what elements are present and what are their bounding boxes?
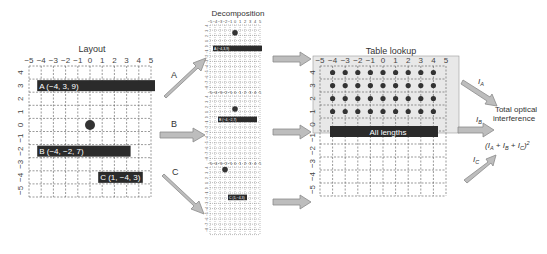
layout-y-ticks: 43210−1−2−3−4−5 bbox=[16, 70, 25, 195]
svg-text:−2: −2 bbox=[205, 126, 209, 130]
svg-text:−2: −2 bbox=[205, 55, 209, 59]
svg-text:−5: −5 bbox=[205, 212, 209, 216]
arrow-a: A bbox=[164, 58, 206, 98]
svg-text:2: 2 bbox=[308, 96, 317, 101]
table-highlight bbox=[313, 56, 459, 133]
svg-text:4: 4 bbox=[137, 56, 142, 65]
formula: (IA + IB + IC)2 bbox=[485, 140, 530, 151]
svg-text:−5: −5 bbox=[24, 56, 34, 65]
svg-text:4: 4 bbox=[205, 95, 209, 97]
total-title-line1: Total optical bbox=[495, 105, 537, 114]
svg-text:−1: −1 bbox=[228, 19, 233, 24]
svg-text:4: 4 bbox=[205, 166, 209, 168]
svg-text:−1: −1 bbox=[228, 161, 233, 166]
svg-text:−4: −4 bbox=[205, 136, 209, 140]
arrow-b-icon bbox=[160, 128, 205, 142]
bar-b-label: B (−4, −2, 7) bbox=[39, 147, 84, 156]
svg-text:1: 1 bbox=[393, 56, 398, 65]
arrow-c-label: C bbox=[172, 167, 179, 177]
layout-x-ticks: −5−4−3−2−1012345 bbox=[24, 56, 153, 65]
table-lookup-panel: Table lookup −5−4−3−2−1012345 43210−1−2−… bbox=[308, 46, 459, 196]
svg-text:0: 0 bbox=[205, 116, 209, 118]
arrow-ic-icon bbox=[464, 155, 496, 183]
svg-text:−6: −6 bbox=[205, 146, 209, 150]
svg-text:−5: −5 bbox=[16, 185, 25, 195]
svg-text:−4: −4 bbox=[37, 56, 47, 65]
svg-text:−2: −2 bbox=[353, 56, 363, 65]
svg-text:−1: −1 bbox=[308, 132, 317, 142]
svg-text:−4: −4 bbox=[308, 171, 317, 181]
svg-text:−4: −4 bbox=[205, 65, 209, 69]
ia-label: IA bbox=[478, 77, 484, 87]
decomposition-title: Decomposition bbox=[212, 9, 265, 18]
svg-text:4: 4 bbox=[431, 56, 436, 65]
svg-text:1: 1 bbox=[205, 182, 209, 184]
svg-text:−1: −1 bbox=[205, 191, 209, 195]
svg-text:0: 0 bbox=[205, 45, 209, 47]
svg-text:−1: −1 bbox=[73, 56, 83, 65]
svg-text:2: 2 bbox=[16, 96, 25, 101]
svg-text:−2: −2 bbox=[16, 146, 25, 156]
svg-text:4: 4 bbox=[254, 19, 257, 24]
svg-text:1: 1 bbox=[205, 111, 209, 113]
svg-text:1: 1 bbox=[308, 109, 317, 114]
svg-text:−5: −5 bbox=[308, 184, 317, 194]
layout-bar-c: C (1, −4, 3) bbox=[98, 172, 143, 183]
svg-text:4: 4 bbox=[205, 24, 209, 26]
svg-text:3: 3 bbox=[205, 30, 209, 32]
svg-text:3: 3 bbox=[249, 90, 252, 95]
svg-text:−5: −5 bbox=[315, 56, 325, 65]
svg-text:1: 1 bbox=[100, 56, 105, 65]
svg-text:0: 0 bbox=[381, 56, 386, 65]
svg-text:−1: −1 bbox=[228, 90, 233, 95]
svg-text:−3: −3 bbox=[16, 159, 25, 169]
svg-text:−6: −6 bbox=[205, 75, 209, 79]
svg-text:1: 1 bbox=[205, 40, 209, 42]
svg-text:−7: −7 bbox=[205, 81, 209, 85]
decomposition-grids: −5−4−3−2−101234543210−1−2−3−4−5−6−7−8−5−… bbox=[205, 19, 262, 235]
svg-text:5: 5 bbox=[259, 161, 262, 166]
svg-text:3: 3 bbox=[205, 172, 209, 174]
total-title-line2: interference bbox=[493, 114, 536, 123]
svg-text:0: 0 bbox=[16, 122, 25, 127]
decomp-bar-b-label: B (−4,−2,7) bbox=[219, 118, 237, 122]
svg-text:−3: −3 bbox=[49, 56, 59, 65]
arrow-b-label: B bbox=[171, 119, 177, 129]
svg-text:3: 3 bbox=[308, 83, 317, 88]
layout-bar-a: A (−4, 3, 9) bbox=[37, 80, 155, 91]
svg-text:3: 3 bbox=[205, 101, 209, 103]
svg-text:−7: −7 bbox=[205, 223, 209, 227]
svg-text:2: 2 bbox=[205, 106, 209, 108]
svg-text:3: 3 bbox=[124, 56, 129, 65]
svg-text:2: 2 bbox=[205, 177, 209, 179]
layout-title: Layout bbox=[78, 44, 106, 54]
svg-text:5: 5 bbox=[444, 56, 449, 65]
svg-text:−8: −8 bbox=[205, 228, 209, 232]
svg-text:0: 0 bbox=[308, 122, 317, 127]
decomp-bar-a-label: A (−4,3,9) bbox=[214, 47, 229, 51]
svg-text:−3: −3 bbox=[308, 158, 317, 168]
svg-text:2: 2 bbox=[205, 35, 209, 37]
svg-text:3: 3 bbox=[249, 161, 252, 166]
arrow-b: B bbox=[160, 119, 205, 142]
svg-text:4: 4 bbox=[308, 70, 317, 75]
svg-text:1: 1 bbox=[16, 109, 25, 114]
svg-text:−3: −3 bbox=[205, 202, 209, 206]
svg-text:−3: −3 bbox=[205, 131, 209, 135]
svg-text:−2: −2 bbox=[308, 145, 317, 155]
svg-text:−5: −5 bbox=[205, 70, 209, 74]
svg-text:−1: −1 bbox=[205, 120, 209, 124]
arrow-a-label: A bbox=[171, 70, 177, 80]
svg-text:5: 5 bbox=[259, 90, 262, 95]
bar-c-label: C (1, −4, 3) bbox=[100, 173, 141, 182]
svg-text:1: 1 bbox=[239, 90, 242, 95]
svg-text:1: 1 bbox=[239, 161, 242, 166]
arrow-ib-icon bbox=[458, 123, 494, 137]
output-section: IA IB IC Total optical interference (IA … bbox=[458, 77, 537, 183]
layout-panel: Layout −5−4−3−2−1012345 43210−1−2−3−4−5 … bbox=[16, 44, 155, 197]
svg-text:−2: −2 bbox=[61, 56, 71, 65]
svg-text:4: 4 bbox=[16, 70, 25, 75]
arrow-c: C bbox=[162, 167, 204, 214]
svg-text:−2: −2 bbox=[205, 197, 209, 201]
svg-text:3: 3 bbox=[16, 83, 25, 88]
